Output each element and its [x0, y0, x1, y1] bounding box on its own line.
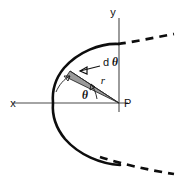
angle-label: θ: [82, 89, 88, 101]
y-axis-label: y: [110, 6, 116, 18]
parabola-lower-dashed-curve: [100, 157, 174, 174]
polar-parabola-diagram: y x P r θ d θ: [0, 0, 176, 178]
dtheta-theta-label: θ: [112, 56, 118, 68]
focus-point-label: P: [124, 97, 131, 109]
x-axis-label: x: [10, 97, 16, 109]
parabola-upper-dashed-curve: [118, 34, 174, 44]
dtheta-d-label: d: [103, 56, 109, 68]
dtheta-leader-line: [80, 66, 100, 71]
parabola-solid-curve: [53, 44, 120, 165]
radius-label: r: [101, 74, 106, 86]
figure-container: y x P r θ d θ: [0, 0, 176, 178]
